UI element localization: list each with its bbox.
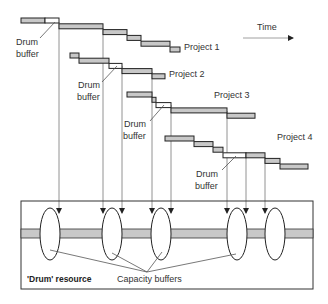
capacity-buffer-ellipse	[227, 208, 247, 260]
capacity-leader	[50, 250, 147, 272]
capacity-buffer-ellipse	[151, 208, 171, 260]
task-bar	[227, 113, 255, 118]
task-bar	[152, 97, 156, 102]
drum-buffer-label: Drum	[124, 119, 146, 129]
drum-buffer-label: buffer	[77, 92, 100, 102]
task-bar	[152, 74, 165, 79]
drum-buffer-callout-2: Drum buffer	[77, 66, 117, 102]
drum-resource-label: 'Drum' resource	[27, 274, 92, 284]
project-2-label: Project 2	[169, 69, 205, 79]
task-bar	[141, 41, 170, 46]
leader-line	[40, 22, 55, 38]
drum-buffer-callout-4: Drum buffer	[195, 156, 236, 191]
drum-buffer-label: buffer	[123, 131, 146, 141]
task-bar	[127, 92, 152, 97]
task-bar	[165, 136, 194, 141]
task-bar	[171, 108, 227, 113]
task-bar	[59, 24, 103, 29]
task-bar	[170, 47, 180, 52]
project-gantt-bars	[21, 18, 308, 169]
task-bar	[79, 58, 109, 63]
time-axis: Time	[243, 22, 293, 38]
drum-buffer-diagram: Time Project 1 Project 2 Project 3 Proje…	[0, 0, 328, 304]
drum-resource-box: 'Drum' resource Capacity buffers	[21, 201, 313, 289]
task-bar	[21, 18, 45, 23]
project-4-label: Project 4	[277, 132, 313, 142]
drum-buffer-bar	[45, 18, 59, 23]
drum-buffer-label: Drum	[78, 80, 100, 90]
task-bar	[194, 142, 213, 147]
task-bar	[246, 153, 265, 158]
capacity-buffer-ellipse	[265, 208, 285, 260]
task-bar	[103, 30, 127, 35]
task-bar	[70, 53, 79, 58]
drum-buffer-label: buffer	[16, 49, 39, 59]
task-bar	[122, 69, 152, 74]
capacity-leader	[147, 252, 162, 272]
project-3-label: Project 3	[214, 90, 250, 100]
task-bar	[265, 158, 280, 163]
capacity-buffer-ellipse	[102, 208, 122, 260]
capacity-buffer-ellipse	[40, 208, 60, 260]
drum-buffer-label: Drum	[16, 37, 38, 47]
task-bar	[127, 35, 141, 40]
drum-buffer-callout-3: Drum buffer	[123, 105, 164, 141]
drum-buffer-callout-1: Drum buffer	[16, 22, 55, 59]
time-label: Time	[257, 22, 277, 32]
task-bar	[213, 147, 223, 152]
capacity-leader	[112, 253, 147, 272]
project-1-label: Project 1	[184, 42, 220, 52]
capacity-buffers-label: Capacity buffers	[117, 274, 182, 284]
drum-buffer-label: buffer	[195, 181, 218, 191]
task-bar	[280, 164, 308, 169]
drum-buffer-label: Drum	[196, 169, 218, 179]
